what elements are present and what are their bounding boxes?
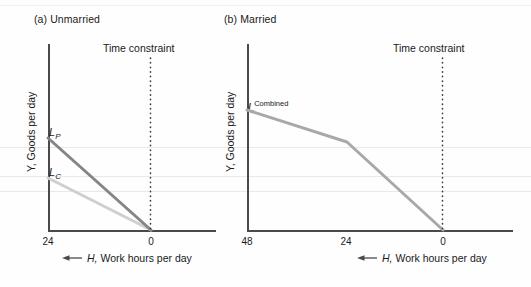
figure-canvas: (a) Unmarried Y, Goods per day 24 0 Time… [0, 0, 531, 287]
panel-b-x-direction-arrow [357, 255, 377, 261]
panel-a-x-direction-arrow [62, 255, 82, 261]
plot-vector-layer [0, 0, 531, 287]
panel-b-curve-lcombined [247, 110, 443, 230]
panel-a-curve-lp [48, 138, 151, 230]
